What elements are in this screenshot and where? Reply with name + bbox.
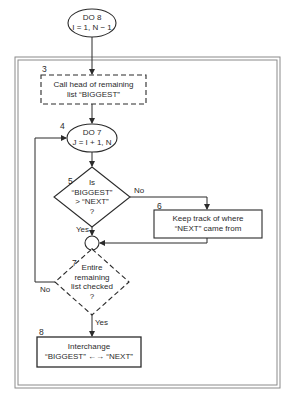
step7-line-1: Entire <box>62 263 122 273</box>
step5-line-4: ? <box>62 207 122 217</box>
step7-yes-label: Yes <box>95 318 108 327</box>
step4-label: DO 7 J = I + 1, N <box>67 128 117 147</box>
step5-line-2: “BIGGEST” <box>62 188 122 198</box>
step5-yes-label: Yes <box>76 225 89 234</box>
step6-line-1: Keep track of where <box>154 214 262 224</box>
step8-line-1: Interchange <box>37 342 141 352</box>
step4-line-2: J = I + 1, N <box>67 138 117 148</box>
step6-label: Keep track of where “NEXT” came from <box>154 214 262 233</box>
junction-circle <box>85 236 99 250</box>
step3-label: Call head of remaining list “BIGGEST” <box>41 80 146 99</box>
step7-no-label: No <box>40 285 50 294</box>
step7-label: Entire remaining list checked ? <box>62 263 122 301</box>
step5-label: Is “BIGGEST” > “NEXT” ? <box>62 178 122 216</box>
step5-line-3: > “NEXT” <box>62 197 122 207</box>
arrow-6-to-junction <box>100 238 207 243</box>
do8-label: DO 8 I = 1, N − 1 <box>68 13 116 32</box>
step3-line-1: Call head of remaining <box>41 80 146 90</box>
step5-no-label: No <box>134 186 144 195</box>
step3-line-2: list “BIGGEST” <box>41 90 146 100</box>
step8-number: 8 <box>39 327 44 337</box>
flowchart-canvas <box>0 0 294 401</box>
step6-number: 6 <box>157 201 162 211</box>
step8-label: Interchange “BIGGEST” ←→ “NEXT” <box>37 342 141 361</box>
step6-line-2: “NEXT” came from <box>154 224 262 234</box>
step7-line-4: ? <box>62 292 122 302</box>
step7-line-3: list checked <box>62 282 122 292</box>
step8-line-2: “BIGGEST” ←→ “NEXT” <box>37 352 141 362</box>
step4-number: 4 <box>60 121 65 131</box>
do8-line-1: DO 8 <box>68 13 116 23</box>
arrow-5-no-to-6 <box>130 197 207 209</box>
step4-line-1: DO 7 <box>67 128 117 138</box>
step5-line-1: Is <box>62 178 122 188</box>
step3-number: 3 <box>42 64 47 74</box>
do8-line-2: I = 1, N − 1 <box>68 23 116 33</box>
step7-line-2: remaining <box>62 273 122 283</box>
